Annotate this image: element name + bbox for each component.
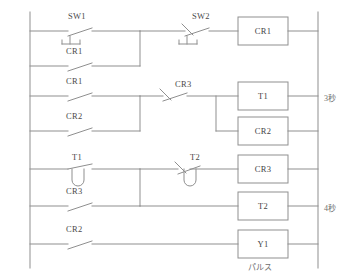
- contact-sw2-blade: [185, 28, 209, 36]
- contact-cr2b-blade: [68, 241, 92, 249]
- contact-label-sw2: SW2: [192, 11, 210, 21]
- contact-label-cr2-b: CR2: [66, 224, 83, 234]
- contact-cr1b-blade: [68, 93, 92, 101]
- contact-cr3nc-slash: [160, 89, 171, 100]
- coil-label-cr3: CR3: [238, 164, 288, 174]
- contact-cr3nc-blade: [163, 93, 187, 101]
- contact-sw1-blade: [68, 28, 92, 36]
- contact-t1-timer-arc: [72, 169, 84, 186]
- coil-label-t1: T1: [238, 91, 288, 101]
- contact-label-t1: T1: [72, 152, 82, 162]
- coil-label-t2: T2: [238, 201, 288, 211]
- contact-cr1a-blade: [68, 63, 92, 71]
- contact-label-cr3-nc: CR3: [175, 79, 192, 89]
- contact-t1-blade: [68, 164, 92, 169]
- contact-cr2a-blade: [68, 128, 92, 136]
- contact-sw2-nc-slash: [182, 24, 193, 35]
- contact-cr3no-blade: [68, 203, 92, 211]
- contact-label-cr1-b: CR1: [66, 76, 83, 86]
- contact-label-cr1-a: CR1: [66, 46, 83, 56]
- coil-label-y1: Y1: [238, 239, 288, 249]
- ladder-schematic: [0, 0, 349, 280]
- ladder-diagram-canvas: SW1 CR1 SW2 CR1 CR3 CR2 T1 T2 CR3 CR2 CR…: [0, 0, 349, 280]
- contact-label-t2: T2: [190, 152, 200, 162]
- coil-label-cr2: CR2: [238, 126, 288, 136]
- annotation-timer-t1-duration: 3秒: [324, 92, 336, 103]
- annotation-timer-t2-duration: 4秒: [324, 202, 336, 213]
- contact-label-sw1: SW1: [68, 11, 86, 21]
- contact-t2-blade: [178, 166, 200, 174]
- annotation-output-y1-pulse: パルス: [248, 261, 272, 272]
- coil-label-cr1: CR1: [238, 26, 288, 36]
- contact-label-cr3-no: CR3: [66, 186, 83, 196]
- contact-label-cr2-a: CR2: [66, 111, 83, 121]
